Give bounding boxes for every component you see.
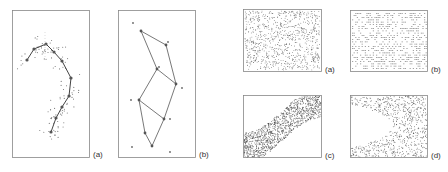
- panel-label-right-b: (b): [431, 65, 441, 74]
- panel-label-left-b: (b): [199, 150, 209, 159]
- panel-label-right-c: (c): [325, 151, 334, 160]
- panel-label-left-a: (a): [93, 150, 103, 159]
- panel-label-right-a: (a): [325, 65, 335, 74]
- panel-right-a: [244, 10, 322, 72]
- panel-right-d: [351, 96, 428, 158]
- panel-label-right-d: (d): [431, 151, 441, 160]
- panel-right-c: [244, 96, 322, 158]
- figure-canvas: [0, 0, 448, 172]
- panel-right-b: [351, 11, 428, 72]
- panel-left-b: [119, 11, 196, 158]
- fitted-chain: [27, 44, 71, 132]
- panel-left-a: [13, 11, 90, 158]
